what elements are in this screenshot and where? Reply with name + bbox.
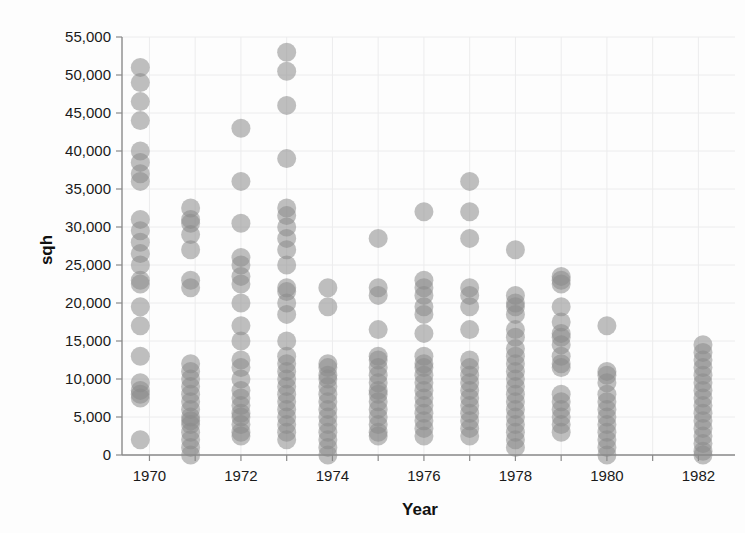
data-point <box>369 320 388 339</box>
y-tick-label: 20,000 <box>65 294 111 311</box>
y-tick-label: 50,000 <box>65 66 111 83</box>
data-point <box>277 62 296 81</box>
data-point <box>131 275 150 294</box>
data-point <box>318 297 337 316</box>
data-point <box>506 438 525 457</box>
data-point <box>277 149 296 168</box>
x-tick-label: 1970 <box>133 467 166 484</box>
data-point <box>131 430 150 449</box>
data-point <box>277 256 296 275</box>
data-point <box>552 275 571 294</box>
data-point <box>131 73 150 92</box>
data-point <box>414 324 433 343</box>
x-tick-labels-group: 1970197219741976197819801982 <box>133 467 715 484</box>
y-tick-label: 0 <box>103 446 111 463</box>
data-point <box>597 316 616 335</box>
data-point <box>231 427 250 446</box>
data-point <box>460 229 479 248</box>
y-tick-label: 45,000 <box>65 104 111 121</box>
data-point <box>231 119 250 138</box>
data-point <box>552 423 571 442</box>
data-point <box>231 294 250 313</box>
data-point <box>131 111 150 130</box>
data-point <box>318 278 337 297</box>
data-point <box>181 240 200 259</box>
y-tick-label: 40,000 <box>65 142 111 159</box>
y-tick-label: 15,000 <box>65 332 111 349</box>
data-point <box>181 278 200 297</box>
data-point <box>369 427 388 446</box>
data-point <box>131 92 150 111</box>
data-point <box>460 297 479 316</box>
data-point <box>369 229 388 248</box>
x-tick-label: 1978 <box>499 467 532 484</box>
x-tick-label: 1980 <box>590 467 623 484</box>
y-axis-title: sqh <box>37 235 56 265</box>
data-point <box>131 347 150 366</box>
data-point <box>131 389 150 408</box>
data-point <box>131 316 150 335</box>
data-point <box>131 172 150 191</box>
y-tick-label: 25,000 <box>65 256 111 273</box>
x-tick-label: 1976 <box>407 467 440 484</box>
data-point <box>131 297 150 316</box>
y-tick-labels-group: 05,00010,00015,00020,00025,00030,00035,0… <box>65 28 111 463</box>
data-point <box>414 427 433 446</box>
data-point <box>231 275 250 294</box>
x-tick-label: 1982 <box>682 467 715 484</box>
data-point <box>231 172 250 191</box>
data-point <box>460 202 479 221</box>
data-point <box>277 43 296 62</box>
data-point <box>460 320 479 339</box>
data-point <box>460 172 479 191</box>
data-point <box>369 286 388 305</box>
data-point <box>231 214 250 233</box>
data-point <box>552 358 571 377</box>
data-point <box>460 427 479 446</box>
data-point <box>277 430 296 449</box>
y-tick-label: 35,000 <box>65 180 111 197</box>
x-tick-label: 1974 <box>316 467 349 484</box>
y-tick-label: 10,000 <box>65 370 111 387</box>
data-point <box>277 96 296 115</box>
data-point <box>506 240 525 259</box>
x-tick-label: 1972 <box>224 467 257 484</box>
scatter-chart-figure: 05,00010,00015,00020,00025,00030,00035,0… <box>0 0 745 533</box>
data-points-group <box>131 43 713 465</box>
chart-canvas: 05,00010,00015,00020,00025,00030,00035,0… <box>0 0 745 533</box>
data-point <box>277 305 296 324</box>
y-tick-label: 5,000 <box>73 408 111 425</box>
y-tick-label: 30,000 <box>65 218 111 235</box>
y-tick-label: 55,000 <box>65 28 111 45</box>
x-axis-title: Year <box>402 500 438 519</box>
data-point <box>231 332 250 351</box>
data-point <box>414 202 433 221</box>
data-point <box>414 305 433 324</box>
